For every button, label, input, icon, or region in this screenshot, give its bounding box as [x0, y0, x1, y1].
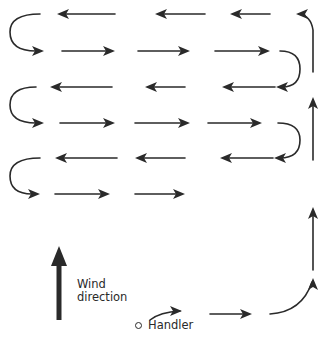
turn-arcs: [10, 14, 300, 199]
sweep-row-1: [57, 9, 270, 19]
start-segment: [270, 282, 312, 314]
sweep-row-2: [62, 46, 270, 56]
turn-arc: [278, 123, 300, 158]
sweep-row-4: [60, 118, 262, 128]
sweep-row-3: [50, 82, 275, 92]
handler-start-path: [150, 278, 318, 320]
sweep-rows: [50, 9, 275, 199]
search-pattern-diagram: [0, 0, 328, 341]
wind-arrowhead-icon: [51, 246, 67, 266]
turn-arc: [280, 51, 300, 87]
handler-position-icon: [135, 322, 142, 329]
sweep-row-6: [55, 189, 185, 199]
turn-arc: [10, 158, 40, 194]
turn-arc: [10, 14, 40, 51]
wind-direction-arrow-icon: [51, 246, 67, 320]
wind-direction-label: Wind direction: [77, 278, 127, 304]
turn-right-2: [274, 123, 300, 163]
arrowhead-icon: [296, 9, 308, 19]
wind-label-line2: direction: [77, 291, 127, 304]
turn-left-1: [10, 14, 44, 56]
turn-left-2: [10, 87, 44, 128]
upwind-segment: [299, 14, 313, 72]
turn-left-3: [10, 158, 40, 199]
turn-right-1: [276, 51, 300, 92]
arrowhead-icon: [308, 278, 318, 290]
sweep-row-5: [55, 153, 273, 163]
handler-label: Handler: [148, 319, 193, 332]
turn-arc: [10, 87, 36, 123]
